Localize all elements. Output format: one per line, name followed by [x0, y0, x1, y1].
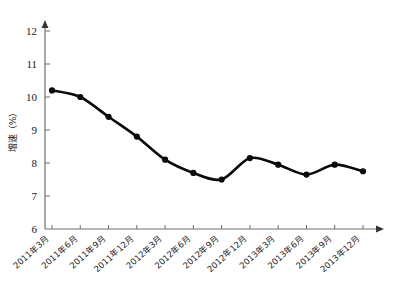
data-point[interactable]: [332, 162, 338, 168]
data-point[interactable]: [303, 171, 309, 177]
y-axis: 6789101112: [26, 20, 50, 235]
y-tick-label: 8: [32, 157, 38, 169]
y-axis-title-text: 增速（%）: [7, 108, 18, 153]
data-point[interactable]: [105, 114, 111, 120]
data-point[interactable]: [275, 162, 281, 168]
data-series: [49, 87, 366, 182]
y-tick-label: 7: [32, 190, 38, 202]
x-axis: 2011年3月2011年6月2011年9月2011年12月2012年3月2012…: [11, 225, 384, 274]
y-tick-label: 12: [26, 25, 37, 37]
series-line-path: [52, 90, 363, 180]
data-point[interactable]: [162, 157, 168, 163]
x-axis-arrow: [376, 226, 384, 233]
data-point[interactable]: [134, 134, 140, 140]
data-point[interactable]: [247, 155, 253, 161]
y-tick-label: 6: [32, 223, 38, 235]
line-chart: 6789101112 2011年3月2011年6月2011年9月2011年12月…: [0, 0, 399, 303]
data-point[interactable]: [219, 176, 225, 182]
y-axis-title: 增速（%）: [7, 108, 18, 153]
data-point[interactable]: [360, 168, 366, 174]
y-tick-label: 11: [26, 58, 37, 70]
data-point[interactable]: [77, 94, 83, 100]
y-axis-arrow: [42, 20, 49, 28]
chart-container: 6789101112 2011年3月2011年6月2011年9月2011年12月…: [0, 0, 399, 303]
data-point[interactable]: [49, 87, 55, 93]
y-tick-label: 10: [26, 91, 38, 103]
data-point[interactable]: [190, 170, 196, 176]
y-tick-label: 9: [32, 124, 38, 136]
